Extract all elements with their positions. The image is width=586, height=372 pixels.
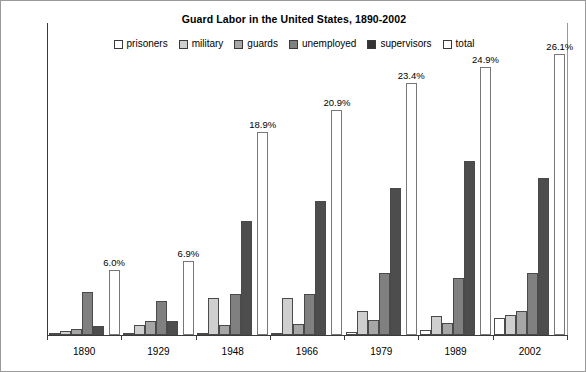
bar-unemployed-2002[interactable] (527, 273, 538, 335)
bar-guards-1989[interactable] (442, 323, 453, 335)
bar-military-1890[interactable] (60, 331, 71, 335)
bar-group-1966: 20.9%1966 (270, 23, 344, 335)
bar-prisoners-1966[interactable] (271, 333, 282, 335)
bars-wrapper: 18.9% (197, 23, 268, 335)
bar-prisoners-2002[interactable] (494, 318, 505, 335)
bar-total-2002[interactable]: 26.1% (554, 54, 565, 335)
x-axis-tick (344, 335, 345, 340)
x-axis-label-1948: 1948 (196, 346, 270, 357)
bar-group-2002: 26.1%2002 (493, 23, 567, 335)
bar-unemployed-1989[interactable] (453, 278, 464, 335)
bar-group-1979: 23.4%1979 (344, 23, 418, 335)
bar-supervisors-1890[interactable] (93, 326, 104, 335)
plot-area: percent of the civilian labor force 6.0%… (47, 23, 567, 335)
bar-prisoners-1890[interactable] (49, 333, 60, 335)
bar-guards-2002[interactable] (516, 311, 527, 335)
x-axis-label-1966: 1966 (270, 346, 344, 357)
x-axis-tick (567, 335, 568, 340)
bar-group-1948: 18.9%1948 (196, 23, 270, 335)
bar-total-1979[interactable]: 23.4% (406, 83, 417, 335)
bar-military-1989[interactable] (431, 316, 442, 335)
total-value-label-2002: 26.1% (546, 41, 573, 52)
bars-wrapper: 23.4% (346, 23, 417, 335)
bar-total-1948[interactable]: 18.9% (257, 132, 268, 335)
bar-prisoners-1989[interactable] (420, 330, 431, 335)
bar-military-1948[interactable] (208, 298, 219, 335)
chart-frame: Guard Labor in the United States, 1890-2… (0, 0, 586, 372)
x-axis-label-2002: 2002 (493, 346, 567, 357)
x-axis-line (47, 335, 568, 336)
bar-unemployed-1966[interactable] (304, 294, 315, 335)
x-axis-label-1979: 1979 (344, 346, 418, 357)
bar-guards-1966[interactable] (293, 324, 304, 335)
bar-prisoners-1979[interactable] (346, 332, 357, 335)
bar-group-1890: 6.0%1890 (47, 23, 121, 335)
x-axis-tick (196, 335, 197, 340)
x-axis-tick (418, 335, 419, 340)
bar-prisoners-1929[interactable] (123, 333, 134, 335)
x-axis-label-1929: 1929 (121, 346, 195, 357)
bars-wrapper: 6.9% (123, 23, 194, 335)
bar-military-1966[interactable] (282, 298, 293, 335)
bar-supervisors-2002[interactable] (538, 178, 549, 335)
bar-unemployed-1979[interactable] (379, 273, 390, 335)
bars-wrapper: 20.9% (271, 23, 342, 335)
bar-unemployed-1948[interactable] (230, 294, 241, 335)
bar-unemployed-1929[interactable] (156, 301, 167, 335)
bar-supervisors-1979[interactable] (390, 188, 401, 335)
bars-wrapper: 26.1% (494, 23, 565, 335)
bar-military-2002[interactable] (505, 315, 516, 335)
bar-supervisors-1989[interactable] (464, 161, 475, 335)
bar-guards-1979[interactable] (368, 320, 379, 335)
bar-total-1929[interactable]: 6.9% (183, 261, 194, 335)
bars-wrapper: 24.9% (420, 23, 491, 335)
bar-unemployed-1890[interactable] (82, 292, 93, 335)
bar-military-1979[interactable] (357, 311, 368, 335)
bar-group-1989: 24.9%1989 (418, 23, 492, 335)
bar-total-1966[interactable]: 20.9% (331, 110, 342, 335)
x-axis-label-1890: 1890 (47, 346, 121, 357)
bar-supervisors-1948[interactable] (241, 221, 252, 335)
plot-right-edge (567, 23, 568, 336)
bar-military-1929[interactable] (134, 325, 145, 335)
bar-guards-1890[interactable] (71, 329, 82, 335)
x-axis-tick (47, 335, 48, 340)
x-axis-tick (493, 335, 494, 340)
bar-total-1989[interactable]: 24.9% (480, 67, 491, 335)
bars-wrapper: 6.0% (49, 23, 120, 335)
bar-guards-1948[interactable] (219, 325, 230, 335)
x-axis-tick (121, 335, 122, 340)
bar-prisoners-1948[interactable] (197, 333, 208, 335)
bar-total-1890[interactable]: 6.0% (109, 270, 120, 335)
bar-groups: 6.0%18906.9%192918.9%194820.9%196623.4%1… (47, 23, 567, 335)
bar-guards-1929[interactable] (145, 321, 156, 335)
bar-supervisors-1966[interactable] (315, 201, 326, 335)
bar-group-1929: 6.9%1929 (121, 23, 195, 335)
bar-supervisors-1929[interactable] (167, 321, 178, 335)
x-axis-label-1989: 1989 (418, 346, 492, 357)
x-axis-tick (270, 335, 271, 340)
